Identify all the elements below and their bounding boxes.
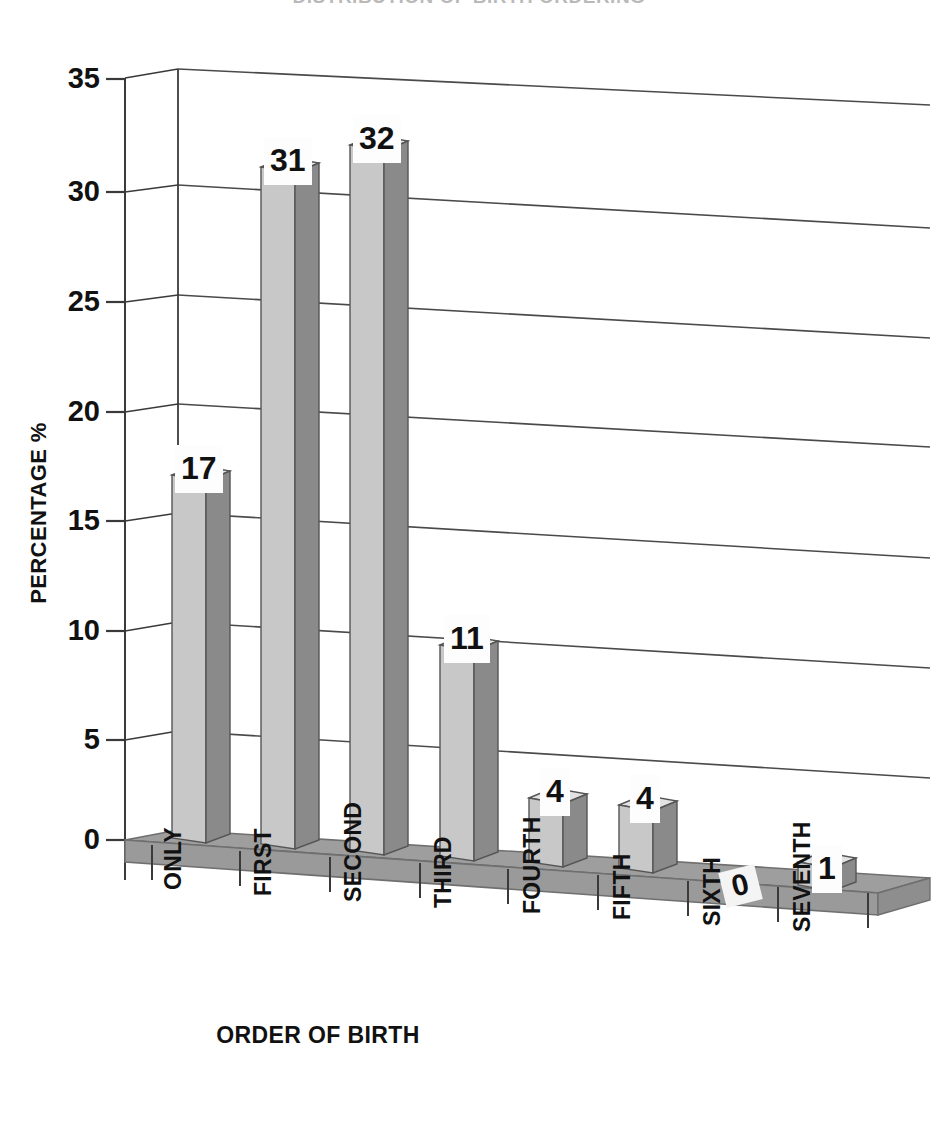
bar-first <box>261 157 319 849</box>
data-label-seventh: 1 <box>812 845 842 893</box>
bar-only <box>172 465 230 843</box>
x-axis-category-seventh: SEVENTH <box>789 821 816 932</box>
x-axis-category-second: SECOND <box>340 802 367 902</box>
data-label-third: 11 <box>444 615 490 663</box>
data-label-only: 17 <box>175 445 223 493</box>
chart-plot-area: 35 30 25 20 15 10 5 0 PERCENTAGE % 17 31… <box>0 0 938 1132</box>
x-axis-category-third: THIRD <box>430 836 457 908</box>
x-axis-category-fifth: FIFTH <box>609 853 636 920</box>
data-label-fourth: 4 <box>540 768 570 816</box>
y-axis-tick-label-10: 10 <box>48 616 100 645</box>
y-axis-tick-label-35: 35 <box>48 64 100 93</box>
y-axis-tick-label-0: 0 <box>48 825 100 854</box>
data-label-fifth: 4 <box>630 775 660 823</box>
bar-first-side <box>295 163 319 849</box>
x-axis-title: ORDER OF BIRTH <box>148 1022 488 1049</box>
x-axis-category-fourth: FOURTH <box>519 816 546 914</box>
y-axis-tick-label-25: 25 <box>48 287 100 316</box>
y-axis-tick-label-15: 15 <box>48 506 100 535</box>
data-label-first: 31 <box>264 137 312 185</box>
data-label-second: 32 <box>353 115 401 163</box>
gridline-35 <box>178 69 930 105</box>
y-axis-top-connector <box>125 69 178 78</box>
y-axis-tick-label-5: 5 <box>48 725 100 754</box>
chart-canvas <box>0 0 938 1132</box>
y-axis-ticks <box>106 79 125 840</box>
bar-third-side <box>474 641 498 861</box>
y-axis-title: PERCENTAGE % <box>26 388 52 638</box>
x-axis-category-sixth: SIXTH <box>699 857 726 926</box>
bar-third-front <box>440 645 474 861</box>
bar-second <box>350 135 408 855</box>
y-axis-tick-label-30: 30 <box>48 177 100 206</box>
bar-first-front <box>261 167 295 849</box>
bar-only-side <box>206 471 230 843</box>
bar-second-side <box>384 141 408 855</box>
bar-only-front <box>172 475 206 843</box>
x-axis-category-only: ONLY <box>160 827 187 890</box>
bar-second-front <box>350 145 384 855</box>
bar-third <box>440 635 498 861</box>
y-axis-tick-label-20: 20 <box>48 397 100 426</box>
x-axis-category-first: FIRST <box>250 828 277 896</box>
y-tick-connectors <box>125 185 178 740</box>
